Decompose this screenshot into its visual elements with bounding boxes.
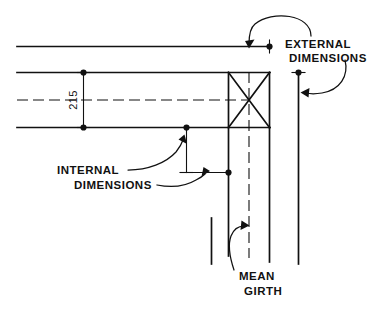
internal-dimension-markers xyxy=(180,124,232,175)
internal-dimensions-label-line2: DIMENSIONS xyxy=(74,179,152,191)
external-side-dim-dot xyxy=(295,69,301,75)
internal-horizontal-dimension-dot xyxy=(225,169,231,175)
depth-dimension-value: 215 xyxy=(67,90,79,109)
internal-dimensions-label-line1: INTERNAL xyxy=(57,164,119,176)
mean-girth-leader-arrowhead xyxy=(241,221,250,231)
mean-girth-leader xyxy=(230,221,250,271)
external-side-leader-arrowhead xyxy=(301,88,310,98)
drawing-svg: 215 xyxy=(0,0,382,309)
depth-dimension-dot-top xyxy=(80,69,86,75)
internal-vertical-dimension-dot xyxy=(183,124,189,130)
vertical-member-group xyxy=(212,73,299,265)
external-dimensions-label: EXTERNAL DIMENSIONS xyxy=(285,38,367,64)
mean-girth-label: MEAN GIRTH xyxy=(239,270,282,297)
internal-horizontal-leader-arc xyxy=(157,174,205,186)
depth-dimension-dot-bottom xyxy=(80,124,86,130)
external-side-leader-arc xyxy=(306,60,346,94)
technical-drawing-canvas: 215 xyxy=(0,0,382,309)
external-dimensions-label-line1: EXTERNAL xyxy=(285,38,351,50)
internal-horizontal-leader-arrowhead xyxy=(202,167,211,177)
internal-dimensions-label: INTERNAL DIMENSIONS xyxy=(57,164,152,191)
internal-horizontal-leader xyxy=(157,167,210,186)
external-side-leader xyxy=(301,60,346,98)
internal-vertical-leader xyxy=(128,135,187,171)
mean-girth-label-line1: MEAN xyxy=(239,270,275,282)
mean-girth-label-line2: GIRTH xyxy=(244,285,282,297)
external-dimensions-label-line2: DIMENSIONS xyxy=(289,52,367,64)
mean-girth-leader-arc xyxy=(230,226,244,270)
external-top-dim-dot xyxy=(266,43,272,49)
internal-vertical-leader-arc xyxy=(128,140,183,170)
internal-vertical-leader-arrowhead xyxy=(179,135,188,145)
